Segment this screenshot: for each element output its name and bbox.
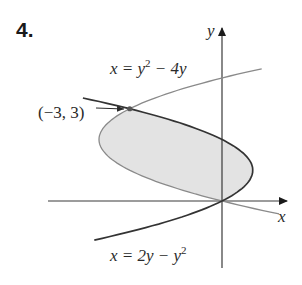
y-axis-label: y bbox=[205, 21, 215, 40]
x-axis-label: x bbox=[277, 207, 286, 226]
shaded-region bbox=[99, 109, 253, 201]
graph: y x (−3, 3) x = y2 − 4y x = 2y − y2 bbox=[0, 0, 302, 285]
equation-upper: x = y2 − 4y bbox=[109, 57, 187, 78]
intersection-label: (−3, 3) bbox=[38, 103, 84, 122]
problem-number: 4. bbox=[16, 18, 34, 42]
intersection-arrow bbox=[96, 108, 124, 109]
figure: 4. y x (−3, 3) x = y2 − 4y x = 2y − y2 bbox=[0, 0, 302, 285]
intersection-point bbox=[127, 106, 132, 111]
equation-lower: x = 2y − y2 bbox=[109, 244, 187, 265]
